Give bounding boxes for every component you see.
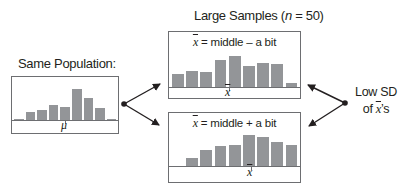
- left-fork-arrows: [121, 84, 160, 125]
- arrow-to-top-sample-icon: [124, 84, 160, 104]
- arrows-overlay: [0, 0, 402, 193]
- right-fork-arrows: [308, 85, 348, 126]
- arrow-from-annotation-to-top-icon: [308, 85, 345, 103]
- arrow-from-annotation-to-bottom-icon: [309, 103, 345, 126]
- arrow-to-bottom-sample-icon: [124, 104, 159, 125]
